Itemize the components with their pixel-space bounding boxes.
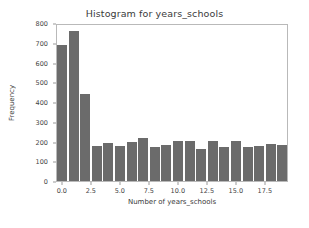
x-tick-label: 7.5: [144, 187, 154, 195]
y-axis-ticks: 0100200300400500600700800: [0, 24, 56, 182]
y-tick-label: 0: [44, 178, 48, 186]
histogram-bar: [208, 141, 218, 181]
y-tick-label: 500: [36, 79, 48, 87]
x-tick-mark: [177, 182, 178, 185]
x-tick-mark: [119, 182, 120, 185]
histogram-bar: [69, 31, 79, 181]
x-tick-label: 0.0: [57, 187, 67, 195]
y-tick-label: 700: [36, 40, 48, 48]
plot-area: [56, 24, 288, 182]
y-tick-label: 200: [36, 139, 48, 147]
bar-series: [57, 25, 287, 181]
histogram-bar: [185, 141, 195, 181]
histogram-bar: [266, 144, 276, 181]
x-tick-mark: [264, 182, 265, 185]
histogram-bar: [161, 145, 171, 181]
histogram-figure: Histogram for years_schools Frequency 01…: [0, 0, 309, 228]
x-tick-label: 15.0: [229, 187, 243, 195]
x-tick-mark: [148, 182, 149, 185]
histogram-bar: [196, 149, 206, 181]
histogram-bar: [138, 138, 148, 181]
chart-title: Histogram for years_schools: [0, 8, 309, 19]
y-tick-label: 400: [36, 99, 48, 107]
y-tick-label: 600: [36, 60, 48, 68]
x-tick-mark: [61, 182, 62, 185]
x-tick-label: 5.0: [115, 187, 125, 195]
histogram-bar: [243, 147, 253, 181]
x-axis-ticks: 0.02.55.07.510.012.515.017.5: [56, 182, 288, 198]
histogram-bar: [150, 147, 160, 181]
x-tick-mark: [206, 182, 207, 185]
histogram-bar: [173, 141, 183, 181]
y-tick-label: 300: [36, 119, 48, 127]
histogram-bar: [103, 143, 113, 181]
x-axis-label: Number of years_schools: [56, 198, 288, 206]
histogram-bar: [254, 146, 264, 181]
histogram-bar: [92, 146, 102, 181]
histogram-bar: [80, 94, 90, 181]
histogram-bar: [231, 141, 241, 181]
x-tick-label: 2.5: [86, 187, 96, 195]
y-tick-label: 100: [36, 158, 48, 166]
x-tick-mark: [90, 182, 91, 185]
histogram-bar: [57, 45, 67, 181]
histogram-bar: [115, 146, 125, 181]
histogram-bar: [219, 147, 229, 181]
x-tick-label: 10.0: [171, 187, 185, 195]
x-tick-mark: [235, 182, 236, 185]
x-tick-label: 17.5: [258, 187, 272, 195]
x-tick-label: 12.5: [200, 187, 214, 195]
y-tick-label: 800: [36, 20, 48, 28]
histogram-bar: [277, 145, 287, 181]
histogram-bar: [127, 142, 137, 181]
